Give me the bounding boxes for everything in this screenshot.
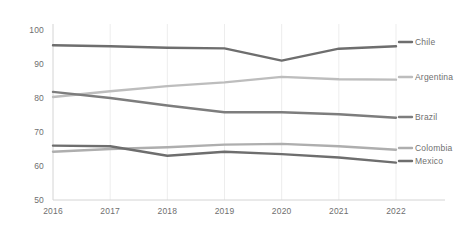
y-tick-90: 90	[18, 59, 44, 69]
legend-label-mexico: Mexico	[415, 156, 443, 166]
legend-label-brazil: Brazil	[415, 112, 437, 122]
x-tick-2022: 2022	[376, 206, 416, 216]
x-tick-2017: 2017	[90, 206, 130, 216]
x-tick-2021: 2021	[319, 206, 359, 216]
y-tick-70: 70	[18, 127, 44, 137]
x-tick-2018: 2018	[147, 206, 187, 216]
y-tick-100: 100	[18, 25, 44, 35]
chart-canvas	[0, 0, 468, 236]
y-tick-50: 50	[18, 195, 44, 205]
line-chart: 5060708090100 20162017201820192020202120…	[0, 0, 468, 236]
y-tick-60: 60	[18, 161, 44, 171]
legend-label-colombia: Colombia	[415, 143, 453, 153]
y-tick-80: 80	[18, 93, 44, 103]
legend-swatches	[399, 42, 412, 161]
legend-label-argentina: Argentina	[415, 72, 453, 82]
x-tick-2020: 2020	[262, 206, 302, 216]
x-tick-2019: 2019	[205, 206, 245, 216]
x-tick-2016: 2016	[33, 206, 73, 216]
legend-label-chile: Chile	[415, 37, 435, 47]
